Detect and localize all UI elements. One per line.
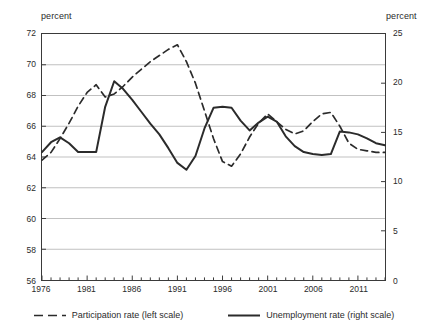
plot-area bbox=[41, 33, 386, 281]
dashed-line-swatch bbox=[33, 311, 67, 320]
solid-line-swatch bbox=[227, 311, 261, 320]
left-tick-60: 60 bbox=[14, 215, 36, 224]
left-tick-66: 66 bbox=[14, 122, 36, 131]
right-axis-title: percent bbox=[386, 11, 417, 21]
series-unemployment bbox=[42, 81, 385, 170]
left-tick-70: 70 bbox=[14, 60, 36, 69]
legend-item-unemployment: Unemployment rate (right scale) bbox=[227, 310, 394, 320]
right-tick-20: 20 bbox=[393, 78, 415, 87]
x-tick-2006: 2006 bbox=[293, 285, 333, 294]
right-tick-5: 5 bbox=[393, 227, 415, 236]
left-tick-62: 62 bbox=[14, 184, 36, 193]
right-tick-0: 0 bbox=[393, 277, 415, 286]
legend-label-unemployment: Unemployment rate (right scale) bbox=[266, 310, 394, 320]
legend-item-participation: Participation rate (left scale) bbox=[33, 310, 184, 320]
right-tick-15: 15 bbox=[393, 128, 415, 137]
x-tick-2001: 2001 bbox=[248, 285, 288, 294]
left-tick-72: 72 bbox=[14, 29, 36, 38]
right-tick-10: 10 bbox=[393, 177, 415, 186]
left-axis-title: percent bbox=[41, 11, 72, 21]
data-lines bbox=[42, 34, 385, 280]
x-tick-1976: 1976 bbox=[21, 285, 61, 294]
chart-container: percent percent 565860626466687072 05101… bbox=[0, 0, 427, 334]
x-tick-2011: 2011 bbox=[339, 285, 379, 294]
right-tick-25: 25 bbox=[393, 29, 415, 38]
left-tick-58: 58 bbox=[14, 246, 36, 255]
legend-label-participation: Participation rate (left scale) bbox=[72, 310, 184, 320]
x-tick-1996: 1996 bbox=[203, 285, 243, 294]
x-tick-1981: 1981 bbox=[66, 285, 106, 294]
x-tick-1991: 1991 bbox=[157, 285, 197, 294]
left-tick-64: 64 bbox=[14, 153, 36, 162]
x-tick-1986: 1986 bbox=[112, 285, 152, 294]
left-tick-68: 68 bbox=[14, 91, 36, 100]
chart-legend: Participation rate (left scale) Unemploy… bbox=[0, 305, 427, 325]
